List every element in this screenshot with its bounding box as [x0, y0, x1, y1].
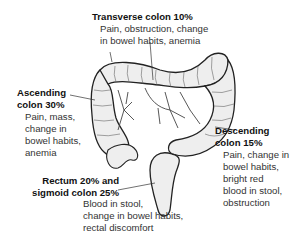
descending-desc-line-5: obstruction: [215, 197, 298, 209]
label-rectum-sigmoid: Rectum 20% and sigmoid colon 25%: [26, 175, 119, 199]
ascending-title-line-2: colon 30%: [17, 99, 87, 111]
descending-desc-line-4: blood in stool,: [215, 185, 298, 197]
ascending-desc-line-4: anemia: [17, 147, 87, 159]
ascending-title-line-1: Ascending: [17, 87, 87, 99]
leader-rectum: [118, 183, 155, 190]
label-descending-colon: Descending colon 15% Pain, change in bow…: [215, 125, 298, 209]
rectum-title-line-1: Rectum 20% and: [26, 175, 119, 187]
label-rectum-sigmoid-desc: Blood in stool, change in bowel habits, …: [83, 198, 183, 234]
rectum-desc-line-3: rectal discomfort: [83, 222, 183, 234]
colon-diagram: Transverse colon 10% Pain, obstruction, …: [0, 0, 301, 238]
transverse-title: Transverse colon 10%: [92, 11, 208, 23]
label-transverse-colon: Transverse colon 10% Pain, obstruction, …: [92, 11, 208, 47]
label-ascending-colon: Ascending colon 30% Pain, mass, change i…: [17, 87, 87, 159]
transverse-desc-line-1: Pain, obstruction, change: [92, 23, 208, 35]
mesenteric-vessels: [118, 88, 200, 130]
ascending-desc-line-1: Pain, mass,: [17, 111, 87, 123]
cecum-appendix-shape: [107, 144, 138, 168]
ascending-desc-line-2: change in: [17, 123, 87, 135]
descending-desc-line-3: bright red: [215, 173, 298, 185]
ascending-desc-line-3: bowel habits,: [17, 135, 87, 147]
rectum-desc-line-2: change in bowel habits,: [83, 210, 183, 222]
descending-desc-line-2: bowel habits,: [215, 161, 298, 173]
descending-title-line-1: Descending: [215, 125, 298, 137]
rectum-desc-line-1: Blood in stool,: [83, 198, 183, 210]
leader-transverse-left: [110, 52, 112, 62]
descending-title-line-2: colon 15%: [215, 137, 298, 149]
transverse-desc-line-2: in bowel habits, anemia: [92, 35, 208, 47]
transverse-colon-shape: [97, 53, 229, 87]
descending-desc-line-1: Pain, change in: [215, 149, 298, 161]
